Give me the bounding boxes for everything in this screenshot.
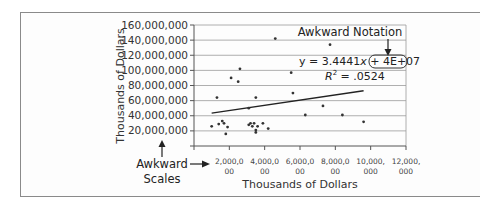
- data-point: [239, 67, 242, 70]
- awkward-scales-label-line1: Awkward: [136, 157, 188, 171]
- x-tick-label-line1: 10,000,: [356, 157, 385, 166]
- data-point: [254, 96, 257, 99]
- x-tick-label-line1: 2,000,0: [215, 157, 244, 166]
- y-tick-label: 120,000,000: [121, 49, 188, 61]
- x-tick-label-line1: 4,000,0: [250, 157, 279, 166]
- data-point: [262, 122, 265, 125]
- gridlines: [194, 25, 406, 146]
- r2-value: = .0524: [337, 70, 385, 83]
- equation-intercept: 4E+07: [383, 55, 420, 68]
- y-tick-label: 160,000,000: [121, 19, 188, 31]
- y-tick-label: 100,000,000: [121, 64, 188, 76]
- trendline-path: [212, 91, 364, 113]
- data-point: [210, 125, 213, 128]
- data-point: [292, 92, 295, 95]
- data-point: [216, 96, 219, 99]
- x-tick-label-line2: 00: [225, 167, 235, 176]
- data-point: [362, 120, 365, 123]
- x-tick-label-line1: 6,000,0: [286, 157, 315, 166]
- data-point: [256, 125, 259, 128]
- y-tick-label: 80,000,000: [128, 79, 188, 91]
- data-point: [224, 133, 227, 136]
- data-point: [237, 80, 240, 83]
- data-point: [221, 120, 224, 123]
- data-point: [274, 37, 277, 40]
- x-axis-ticks: 2,000,0004,000,0006,000,0008,000,00010,0…: [215, 146, 420, 176]
- data-point: [223, 122, 226, 125]
- y-tick-label: 60,000,000: [128, 94, 188, 106]
- y-axis-ticks: 20,000,00040,000,00060,000,00080,000,000…: [121, 19, 194, 137]
- data-point: [329, 43, 332, 46]
- data-point: [267, 127, 270, 130]
- data-points: [210, 37, 365, 135]
- data-point: [249, 122, 252, 125]
- data-point: [251, 125, 254, 128]
- data-point: [290, 71, 293, 74]
- up-arrow-icon: [159, 140, 166, 157]
- equation-prefix: y = 3.4441: [299, 55, 360, 68]
- right-arrow-icon: [190, 161, 210, 168]
- y-tick-label: 40,000,000: [128, 109, 188, 121]
- r-squared: R2 = .0524: [325, 69, 385, 83]
- trendline-equation: y = 3.4441x + 4E+07: [299, 55, 420, 68]
- y-tick-label: 140,000,000: [121, 34, 188, 46]
- data-point: [247, 107, 250, 110]
- data-point: [217, 123, 220, 126]
- x-tick-label-line1: 12,000,: [392, 157, 421, 166]
- x-axis-title: Thousands of Dollars: [241, 178, 358, 191]
- y-axis-title: Thousands of Dollars: [114, 28, 127, 145]
- data-point: [226, 126, 229, 129]
- trendline: [212, 91, 364, 113]
- x-tick-label-line2: 000: [364, 167, 379, 176]
- data-point: [322, 105, 325, 108]
- data-point: [253, 122, 256, 125]
- x-tick-label-line2: 00: [295, 167, 305, 176]
- x-tick-label-line2: 00: [331, 167, 341, 176]
- awkward-notation-label: Awkward Notation: [298, 25, 403, 39]
- awkward-scales-label-line2: Scales: [144, 172, 181, 186]
- data-point: [230, 77, 233, 80]
- data-point: [304, 114, 307, 117]
- data-point: [254, 131, 257, 134]
- y-tick-label: 20,000,000: [128, 124, 188, 136]
- r2-symbol: R: [325, 70, 333, 83]
- data-point: [341, 114, 344, 117]
- x-tick-label-line2: 00: [260, 167, 270, 176]
- down-arrow-icon: [385, 39, 392, 56]
- x-tick-label-line1: 8,000,0: [321, 157, 350, 166]
- x-tick-label-line2: 000: [399, 167, 414, 176]
